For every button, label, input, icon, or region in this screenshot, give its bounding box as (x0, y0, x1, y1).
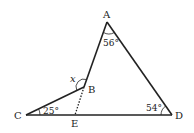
point-label-A: A (102, 9, 111, 20)
point-label-D: D (175, 110, 183, 121)
angle-arc-A (103, 32, 114, 34)
angle-label-B-variable-x: x (70, 73, 76, 84)
segment-AD (107, 22, 172, 115)
point-label-E: E (71, 118, 78, 129)
point-label-B: B (88, 84, 95, 95)
angle-label-C: 25° (43, 106, 59, 116)
angle-arc-C (39, 109, 40, 115)
angle-label-A: 56° (103, 38, 119, 48)
segment-AB (84, 22, 107, 87)
geometry-diagram: A B C D E 56° x 25° 54° (0, 0, 194, 133)
point-label-C: C (14, 110, 22, 121)
angle-label-D: 54° (146, 103, 162, 113)
